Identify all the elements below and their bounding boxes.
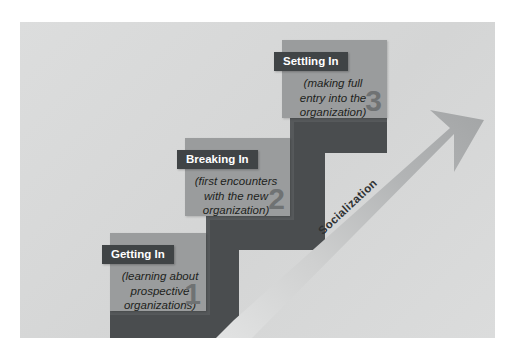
step-3-title: Settling In <box>274 52 348 71</box>
step-panel-3[interactable]: Settling In (making full entry into the … <box>282 40 387 118</box>
step-2-title: Breaking In <box>177 150 258 169</box>
step-3-number: 3 <box>365 86 382 116</box>
step-1-number: 1 <box>184 279 201 309</box>
diagram-canvas: Socialization Getting In (learning about… <box>20 22 495 338</box>
step-panel-2[interactable]: Breaking In (first encounters with the n… <box>185 138 290 216</box>
step-2-number: 2 <box>268 184 285 214</box>
step-panel-1[interactable]: Getting In (learning about prospective o… <box>110 233 206 311</box>
step-1-title: Getting In <box>102 245 174 264</box>
socialization-stairs-diagram: Socialization Getting In (learning about… <box>0 0 515 359</box>
